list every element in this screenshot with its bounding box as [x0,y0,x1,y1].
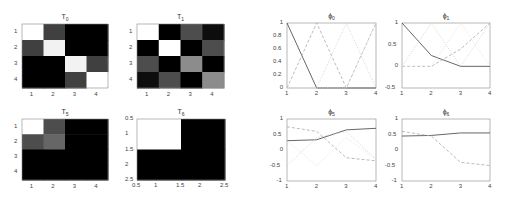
T1-plot [137,24,224,88]
heatmap-cell [65,150,87,166]
heatmap-cell [65,134,87,150]
heatmap-cell [159,56,181,73]
y-tick-label: 2 [14,44,17,50]
heatmap-cell [65,56,87,73]
heatmap-cell [181,40,203,57]
y-tick-label: 1 [129,28,132,34]
x-tick-label: 2 [315,183,318,189]
heatmap-cell [22,165,44,181]
heatmap-cell [65,119,87,135]
x-tick-label: 3 [344,90,347,96]
heatmap-cell [137,24,159,41]
x-tick-label: 4 [488,90,491,96]
y-tick-label: 2 [14,138,17,144]
x-tick-label: 3 [188,91,191,97]
y-tick-label: 0.5 [388,41,396,47]
heatmap-cell [181,72,203,89]
heatmap-cell [65,165,87,181]
heatmap-cell [65,24,87,41]
heatmap-cell [44,72,66,89]
x-tick-label: 4 [488,183,491,189]
y-tick-label: -1 [391,177,396,183]
phi0-plot [287,23,376,88]
heatmap-cell [22,119,44,135]
y-tick-label: 1 [125,130,128,136]
heatmap-cell [22,72,44,89]
heatmap-cell [87,165,109,181]
x-tick-label: 2 [315,90,318,96]
x-tick-label: 1.5 [176,182,184,188]
x-tick-label: 1 [30,91,33,97]
x-tick-label: 1 [400,183,403,189]
heatmap-cell [137,119,182,150]
y-tick-label: 0.6 [273,45,281,51]
heatmap-cell [22,134,44,150]
phi6-title: ϕ6 [402,108,490,117]
heatmap-cell [87,150,109,166]
y-tick-label: 0.5 [388,131,396,137]
T1-title: T1 [137,13,224,22]
heatmap-cell [44,119,66,135]
x-tick-label: 3 [73,91,76,97]
heatmap-cell [137,40,159,57]
heatmap-cell [22,24,44,41]
heatmap-cell [137,56,159,73]
heatmap-cell [137,72,159,89]
y-tick-label: 1 [280,19,283,25]
y-tick-label: 1 [395,19,398,25]
heatmap-cell [202,72,224,89]
x-tick-label: 1 [154,182,157,188]
heatmap-cell [159,24,181,41]
heatmap-cell [202,40,224,57]
T5-title: T5 [22,108,108,117]
y-tick-label: 1.5 [125,146,133,152]
x-tick-label: 3 [459,183,462,189]
y-tick-label: 0.2 [273,71,281,77]
y-tick-label: 0 [395,146,398,152]
x-tick-label: 1 [285,90,288,96]
y-tick-label: 4 [14,76,17,82]
x-tick-label: 1 [30,183,33,189]
heatmap-cell [22,40,44,57]
heatmap-cell [87,72,109,89]
heatmap-cell [181,24,203,41]
y-tick-label: 1 [14,123,17,129]
x-tick-label: 4 [94,91,97,97]
x-tick-label: 2 [429,183,432,189]
heatmap-cell [87,40,109,57]
phi6-plot [402,119,490,181]
x-tick-label: 4 [210,91,213,97]
heatmap-cell [87,119,109,135]
heatmap-cell [181,56,203,73]
x-tick-label: 4 [374,183,377,189]
heatmap-cell [87,56,109,73]
phi0-title: ϕ0 [287,12,376,21]
phi1-title: ϕ1 [402,12,490,21]
heatmap-cell [181,150,226,181]
x-tick-label: 3 [73,183,76,189]
y-tick-label: 4 [14,168,17,174]
y-tick-label: 1 [280,115,283,121]
heatmap-cell [44,165,66,181]
x-tick-label: 2 [167,91,170,97]
phi5-plot [287,119,376,181]
y-tick-label: 0.8 [273,32,281,38]
y-tick-label: 1 [395,115,398,121]
heatmap-cell [44,56,66,73]
x-tick-label: 2 [51,183,54,189]
heatmap-cell [181,119,226,150]
heatmap-cell [159,72,181,89]
y-tick-label: 0 [280,146,283,152]
heatmap-cell [65,72,87,89]
heatmap-cell [202,24,224,41]
y-tick-label: 2 [129,44,132,50]
heatmap-cell [22,56,44,73]
y-tick-label: 3 [14,60,17,66]
x-tick-label: 1 [400,90,403,96]
x-tick-label: 4 [374,90,377,96]
heatmap-cell [44,150,66,166]
x-tick-label: 3 [344,183,347,189]
heatmap-cell [202,56,224,73]
heatmap-cell [22,150,44,166]
phi1-plot [402,23,490,88]
